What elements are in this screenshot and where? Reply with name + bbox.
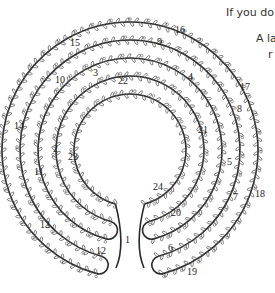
path-number-label: 7: [233, 191, 238, 202]
path-number-label: 24: [153, 181, 163, 192]
path-number-label: 22: [118, 75, 128, 86]
labyrinth-svg: 123456789101112131415161718192021222324: [0, 0, 275, 293]
path-number-label: 18: [255, 188, 265, 199]
path-number-label: 4: [188, 71, 193, 82]
path-number-label: 21: [198, 124, 208, 135]
path-number-label: 12: [96, 245, 106, 256]
vine-turn: [142, 221, 153, 239]
path-number-label: 20: [171, 207, 181, 218]
path-number-label: 10: [55, 74, 65, 85]
path-number-label: 13: [40, 219, 50, 230]
caption-line: If you do: [226, 6, 274, 19]
path-number-label: 16: [175, 24, 185, 35]
caption-line: A la: [256, 32, 275, 45]
vine-turn: [97, 256, 108, 274]
path-number-label: 19: [187, 266, 197, 277]
path-number-label: 9: [157, 36, 162, 47]
caption-line: r: [268, 48, 273, 61]
vine-turn: [106, 221, 117, 239]
path-number-label: 1: [125, 234, 130, 245]
vine-path-inner-ring: [69, 89, 190, 208]
path-number-label: 14: [14, 120, 24, 131]
vine-path-outer-ring: [0, 17, 263, 278]
path-number-label: 5: [227, 156, 232, 167]
path-number-label: 2: [53, 143, 58, 154]
path-number-label: 8: [237, 103, 242, 114]
labyrinth-illustration: 123456789101112131415161718192021222324: [0, 0, 275, 293]
path-number-label: 17: [240, 81, 250, 92]
path-number-label: 11: [34, 166, 44, 177]
path-number-label: 23: [68, 151, 78, 162]
path-number-label: 15: [70, 37, 80, 48]
path-number-label: 6: [168, 242, 173, 253]
path-number-label: 3: [93, 67, 98, 78]
